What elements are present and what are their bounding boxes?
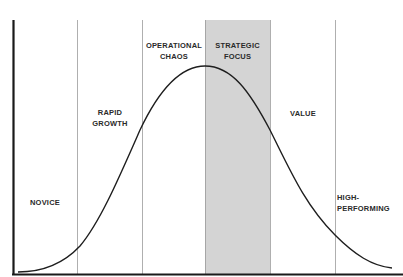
- stage-label-rapid-growth: RAPID GROWTH: [88, 107, 132, 129]
- stage-label-novice: NOVICE: [30, 197, 60, 208]
- stage-label-high-performing: HIGH- PERFORMING: [337, 192, 390, 214]
- stage-label-strategic-focus: STRATEGIC FOCUS: [205, 40, 270, 62]
- stage-label-operational-chaos: OPERATIONAL CHAOS: [142, 40, 206, 62]
- bell-curve-diagram: NOVICE RAPID GROWTH OPERATIONAL CHAOS ST…: [0, 0, 403, 277]
- stage-label-value: VALUE: [280, 108, 326, 119]
